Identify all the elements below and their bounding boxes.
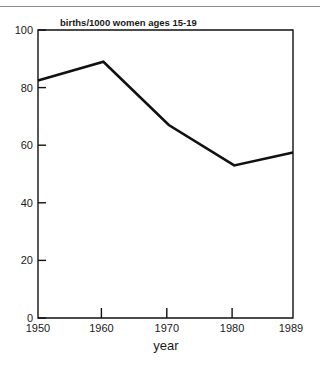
chart-title: births/1000 women ages 15-19	[60, 17, 197, 28]
x-axis-label-1980: 1980	[220, 322, 244, 334]
chart-canvas: 100 80 60 40 20 0 1950 1960 1970 1980 19…	[0, 0, 320, 372]
y-axis-label-80: 80	[21, 82, 33, 94]
y-axis-label-20: 20	[21, 254, 33, 266]
data-series-line	[38, 62, 293, 166]
x-axis-title: year	[153, 338, 179, 353]
y-axis-label-60: 60	[21, 139, 33, 151]
y-axis-label-100: 100	[15, 24, 33, 36]
y-axis-label-40: 40	[21, 197, 33, 209]
x-axis-label-1970: 1970	[155, 322, 179, 334]
x-axis-label-1960: 1960	[89, 322, 113, 334]
line-chart: 100 80 60 40 20 0 1950 1960 1970 1980 19…	[0, 0, 320, 372]
chart-page: 100 80 60 40 20 0 1950 1960 1970 1980 19…	[0, 0, 320, 372]
x-axis-label-1989: 1989	[279, 322, 303, 334]
plot-frame	[38, 30, 293, 318]
x-axis-label-1950: 1950	[26, 322, 50, 334]
